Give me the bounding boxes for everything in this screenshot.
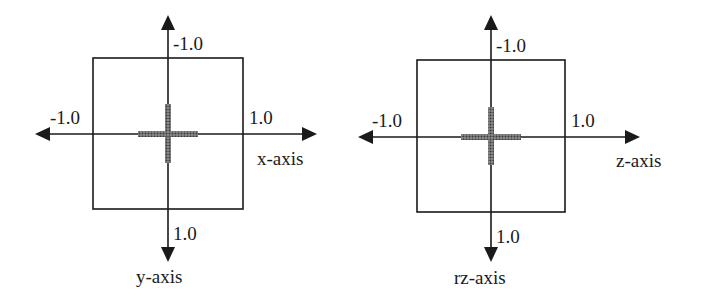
diagram-z-rz: -1.0 -1.0 1.0 z-axis 1.0 rz-axis (358, 15, 661, 288)
arrow-right-icon (302, 127, 317, 141)
position-cross-icon (138, 104, 198, 163)
arrow-left-icon (358, 130, 373, 144)
horizontal-axis-label: x-axis (257, 148, 303, 169)
bottom-tick-label: 1.0 (496, 226, 520, 247)
arrow-up-icon (161, 15, 175, 30)
axis-diagrams: -1.0 -1.0 1.0 x-axis 1.0 y-axis -1.0 -1.… (0, 0, 705, 304)
diagram-xy: -1.0 -1.0 1.0 x-axis 1.0 y-axis (35, 15, 317, 287)
arrow-down-icon (161, 247, 175, 262)
position-cross-icon (461, 107, 521, 165)
horizontal-axis-label: z-axis (616, 150, 661, 171)
arrow-left-icon (35, 127, 50, 141)
top-tick-label: -1.0 (496, 35, 526, 56)
left-tick-label: -1.0 (50, 107, 80, 128)
arrow-down-icon (484, 247, 498, 262)
vertical-axis-label: rz-axis (454, 267, 506, 288)
vertical-axis-label: y-axis (136, 266, 182, 287)
right-tick-label: 1.0 (571, 110, 595, 131)
left-tick-label: -1.0 (372, 110, 402, 131)
arrow-up-icon (484, 15, 498, 30)
bottom-tick-label: 1.0 (173, 223, 197, 244)
arrow-right-icon (625, 130, 640, 144)
right-tick-label: 1.0 (249, 107, 273, 128)
top-tick-label: -1.0 (173, 33, 203, 54)
